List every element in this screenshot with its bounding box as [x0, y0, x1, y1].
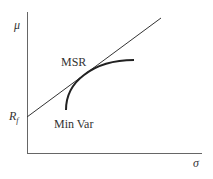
rf-label: Rf: [9, 110, 19, 125]
min-var-label: Min Var: [54, 118, 93, 130]
diagram-canvas: [0, 0, 213, 179]
y-axis-label: μ: [14, 19, 20, 31]
msr-label: MSR: [61, 56, 86, 68]
rf-sub: f: [16, 116, 18, 125]
x-axis-label: σ: [193, 157, 199, 169]
